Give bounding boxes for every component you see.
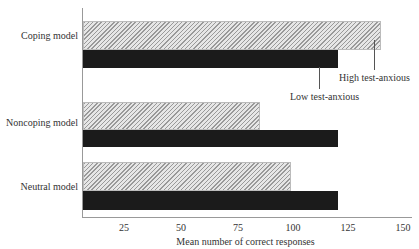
category-label-neutral: Neutral model xyxy=(0,181,78,192)
bar-noncoping-model-high-test-anxious xyxy=(83,102,260,130)
category-label-noncoping: Noncoping model xyxy=(0,117,78,128)
x-tick-50: 50 xyxy=(176,222,186,233)
x-tick-125: 125 xyxy=(341,222,356,233)
legend-high-test-anxious: High test-anxious xyxy=(339,72,410,83)
leader-line-high xyxy=(374,40,375,70)
category-label-coping: Coping model xyxy=(0,30,78,41)
legend-low-test-anxious: Low test-anxious xyxy=(290,91,359,102)
bar-coping-model-low-test-anxious xyxy=(83,50,338,68)
x-axis-line xyxy=(82,217,412,218)
x-tick-25: 25 xyxy=(119,222,129,233)
leader-line-low xyxy=(319,67,320,89)
x-tick-100: 100 xyxy=(286,222,301,233)
bar-noncoping-model-low-test-anxious xyxy=(83,130,338,147)
bar-neutral-model-low-test-anxious xyxy=(83,191,338,210)
x-tick-75: 75 xyxy=(233,222,243,233)
x-tick-150: 150 xyxy=(396,222,411,233)
x-axis-label: Mean number of correct responses xyxy=(0,236,419,247)
bar-coping-model-high-test-anxious xyxy=(83,21,381,50)
bar-neutral-model-high-test-anxious xyxy=(83,162,291,191)
